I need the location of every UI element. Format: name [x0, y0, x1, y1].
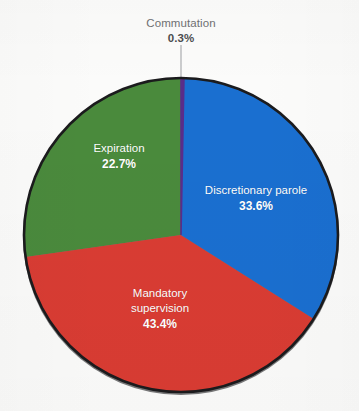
pie-chart-figure: Commutation 0.3% Discretionary parole 33… [0, 0, 359, 411]
slice-label-mandatory-supervision-value: 43.4% [95, 317, 225, 333]
slice-label-commutation: Commutation 0.3% [121, 16, 241, 46]
slice-label-discretionary-parole: Discretionary parole 33.6% [191, 183, 321, 215]
slice-label-discretionary-parole-value: 33.6% [191, 199, 321, 215]
slice-label-mandatory-supervision: Mandatory supervision 43.4% [95, 286, 225, 332]
slice-label-expiration-value: 22.7% [61, 157, 177, 173]
slice-label-expiration-name: Expiration [61, 141, 177, 156]
slice-label-mandatory-supervision-name-line2: supervision [95, 301, 225, 316]
slice-label-expiration: Expiration 22.7% [61, 141, 177, 173]
slice-label-commutation-name: Commutation [121, 16, 241, 30]
slice-label-discretionary-parole-name: Discretionary parole [191, 183, 321, 198]
slice-label-mandatory-supervision-name-line1: Mandatory [95, 286, 225, 301]
slice-label-commutation-value: 0.3% [121, 31, 241, 45]
